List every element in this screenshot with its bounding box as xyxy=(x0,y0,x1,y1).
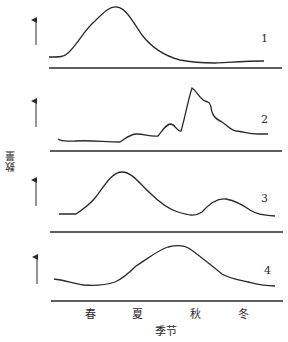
panel-4 xyxy=(37,246,283,301)
curve-2 xyxy=(58,88,268,142)
y-axis-title: 数量 xyxy=(6,150,16,172)
panel-2 xyxy=(36,88,282,151)
panel-label-1: 1 xyxy=(261,33,268,44)
curve-4 xyxy=(54,246,275,286)
panel-label-4: 4 xyxy=(264,265,271,276)
season-label-summer: 夏 xyxy=(132,309,143,320)
season-label-autumn: 秋 xyxy=(190,309,201,320)
curve-3 xyxy=(59,172,275,216)
seasonal-abundance-diagram xyxy=(0,0,288,342)
panel-3 xyxy=(36,172,283,232)
curve-1 xyxy=(49,7,264,63)
panel-label-3: 3 xyxy=(261,193,268,204)
x-axis-title: 季节 xyxy=(155,326,177,337)
season-label-spring: 春 xyxy=(85,309,96,320)
season-label-winter: 冬 xyxy=(238,309,249,320)
panel-label-2: 2 xyxy=(261,114,268,125)
panel-1 xyxy=(36,7,282,68)
